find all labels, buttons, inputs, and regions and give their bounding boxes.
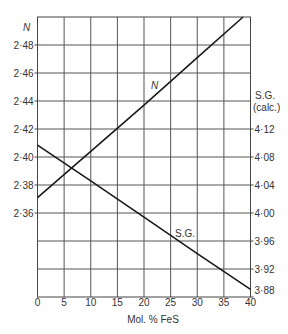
left-tick-label: 2·46 bbox=[13, 68, 33, 79]
x-tick-label: 15 bbox=[112, 297, 124, 308]
right-axis-label-line2: (calc.) bbox=[253, 102, 280, 113]
x-tick-label: 0 bbox=[35, 297, 41, 308]
x-tick-label: 20 bbox=[138, 297, 150, 308]
left-tick-label: 2·44 bbox=[13, 96, 33, 107]
right-tick-label: 4·04 bbox=[255, 180, 275, 191]
x-axis-tick-labels: 0510152025303540 bbox=[35, 297, 257, 308]
right-axis-tick-labels: 4·124·084·044·003·963·923·88 bbox=[251, 124, 275, 298]
left-axis-label: N bbox=[23, 22, 31, 33]
left-tick-label: 2·36 bbox=[13, 208, 33, 219]
left-tick-label: 2·48 bbox=[13, 40, 33, 51]
right-axis-label-line1: S.G. bbox=[255, 90, 275, 101]
x-axis-label: Mol. % FeS bbox=[127, 314, 179, 325]
left-tick-label: 2·40 bbox=[13, 152, 33, 163]
series-label-n: N bbox=[151, 80, 159, 91]
left-axis-tick-labels: 2·482·462·442·422·402·382·36 bbox=[13, 40, 37, 219]
x-tick-label: 35 bbox=[218, 297, 230, 308]
right-tick-label: 3·92 bbox=[255, 264, 275, 275]
series-label-sg: S.G. bbox=[175, 228, 195, 239]
x-tick-label: 10 bbox=[85, 297, 97, 308]
right-tick-label: 4·12 bbox=[255, 124, 275, 135]
right-tick-label: 3·96 bbox=[255, 236, 275, 247]
right-tick-label: 4·00 bbox=[255, 208, 275, 219]
left-tick-label: 2·42 bbox=[13, 124, 33, 135]
x-tick-label: 40 bbox=[245, 297, 257, 308]
x-tick-label: 25 bbox=[165, 297, 177, 308]
left-tick-label: 2·38 bbox=[13, 180, 33, 191]
series-line-n bbox=[38, 17, 244, 198]
x-tick-label: 30 bbox=[192, 297, 204, 308]
line-chart: 0510152025303540 2·482·462·442·422·402·3… bbox=[0, 0, 288, 334]
right-tick-label: 4·08 bbox=[255, 152, 275, 163]
x-tick-label: 5 bbox=[61, 297, 67, 308]
right-tick-label: 3·88 bbox=[255, 285, 275, 296]
